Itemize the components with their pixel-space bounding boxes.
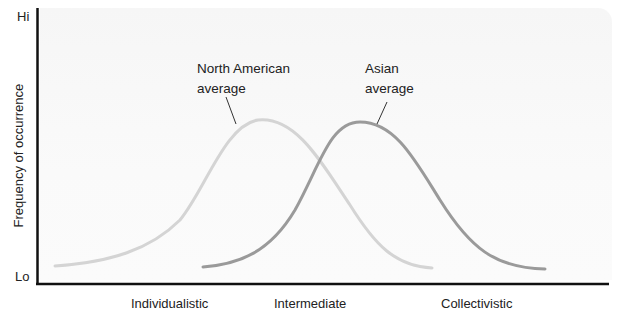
x-tick-intermediate: Intermediate (274, 296, 346, 311)
y-axis-label: Frequency of occurrence (11, 88, 26, 228)
asian-leader-line (377, 102, 387, 124)
north-american-annotation-line2: average (197, 79, 290, 99)
x-tick-collectivistic: Collectivistic (441, 296, 513, 311)
asian-annotation-line2: average (365, 79, 414, 99)
north-american-leader-line (226, 97, 236, 124)
asian-annotation: Asian average (365, 59, 414, 99)
asian-annotation-line1: Asian (365, 59, 414, 79)
north-american-curve (55, 120, 432, 268)
north-american-annotation: North American average (197, 59, 290, 99)
north-american-annotation-line1: North American (197, 59, 290, 79)
chart-plot (0, 0, 618, 321)
x-tick-individualistic: Individualistic (131, 296, 208, 311)
y-tick-hi: Hi (17, 9, 29, 24)
asian-curve (203, 122, 545, 269)
y-tick-lo: Lo (15, 269, 29, 284)
